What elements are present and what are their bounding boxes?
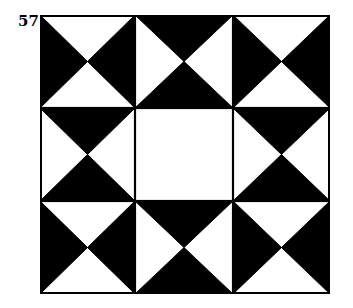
quilt-cell-r0-c0 [40,15,135,108]
figure-number: 57 [18,14,39,29]
quilt-block [40,15,330,294]
quilt-cell-r2-c2 [233,201,330,294]
quilt-cell-r1-c0 [40,108,135,201]
quilt-cell-r2-c0 [40,201,135,294]
quilt-diagram [40,15,330,294]
quilt-cell-r1-c2 [233,108,330,201]
quilt-cell-r0-c2 [233,15,330,108]
quilt-cell-r0-c1 [135,15,233,108]
quilt-cell-r2-c1 [135,201,233,294]
quilt-cell-r1-c1 [135,108,233,201]
